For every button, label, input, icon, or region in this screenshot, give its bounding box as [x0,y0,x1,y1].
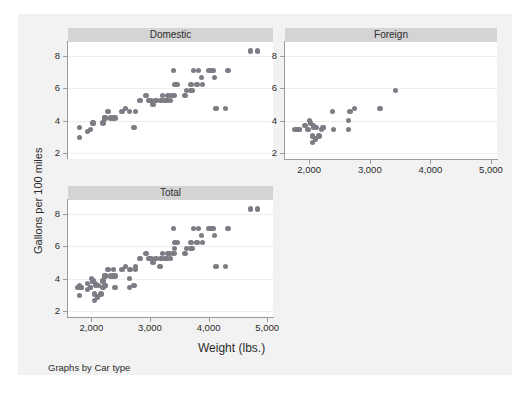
data-point [127,109,132,114]
y-tick-label: 8 [257,51,277,60]
y-tick-label: 2 [40,148,60,157]
y-axis-line [67,199,68,317]
data-point [199,75,204,80]
plot-area-foreign: 24682,0003,0004,0005,000 [285,42,497,159]
gridline [68,214,273,215]
plot-area-total: 24682,0003,0004,0005,000 [68,200,273,317]
data-point [175,82,180,87]
y-tick-label: 8 [40,51,60,60]
figure-note: Graphs by Car type [48,362,130,373]
data-point [172,246,177,251]
y-tick [63,214,67,215]
gridline [285,88,497,89]
data-point [196,68,201,73]
data-point [112,273,117,278]
x-tick-label: 5,000 [471,165,511,175]
y-tick [63,311,67,312]
data-point [133,109,138,114]
data-point [88,127,93,132]
y-tick-label: 4 [40,274,60,283]
data-point [77,125,82,130]
data-point [248,48,253,53]
data-point [171,68,176,73]
data-point [131,283,136,288]
y-tick [63,279,67,280]
data-point [171,226,176,231]
data-point [194,82,199,87]
data-point [102,115,107,120]
y-tick [63,153,67,154]
data-point [296,127,301,132]
gridline [68,279,273,280]
y-tick-label: 6 [40,241,60,250]
gridline [68,311,273,312]
data-point [200,82,205,87]
panel-total: Total 24682,0003,0004,0005,000 [68,186,273,317]
panel-domestic: Domestic 2468 [68,28,273,159]
data-point [330,109,335,114]
y-axis-line [284,41,285,159]
y-tick [63,56,67,57]
plot-area-domestic: 2468 [68,42,273,159]
data-point [255,206,260,211]
data-point [200,240,205,245]
data-point [213,264,218,269]
data-point [213,106,218,111]
y-tick [63,121,67,122]
data-point [102,273,107,278]
data-point [225,226,230,231]
data-point [182,251,187,256]
gridline [285,153,497,154]
data-point [199,233,204,238]
y-tick-label: 4 [257,116,277,125]
data-point [248,206,253,211]
data-point [131,125,136,130]
data-point [212,75,217,80]
data-point [111,267,116,272]
data-point [346,127,351,132]
x-tick-label: 3,000 [350,165,390,175]
x-tick-label: 4,000 [410,165,450,175]
panel-title-domestic: Domestic [68,28,273,42]
y-axis-title: Gallons per 100 miles [32,148,44,254]
data-point [98,291,103,296]
y-tick [280,88,284,89]
y-tick [280,56,284,57]
data-point [189,88,194,93]
data-point [188,240,193,245]
x-tick-label: 4,000 [189,323,229,333]
gridline [285,121,497,122]
y-axis-line [67,41,68,159]
data-point [211,226,216,231]
data-point [196,226,201,231]
y-tick [63,88,67,89]
data-point [316,133,321,138]
data-point [225,68,230,73]
gridline [68,121,273,122]
x-axis-title: Weight (lbs.) [198,341,265,355]
data-point [79,285,84,290]
data-point [223,264,228,269]
y-tick [280,121,284,122]
gridline [68,56,273,57]
data-point [77,293,82,298]
data-point [346,118,351,123]
y-tick-label: 8 [40,209,60,218]
data-point [103,283,108,288]
x-tick-label: 5,000 [247,323,287,333]
panel-foreign: Foreign 24682,0003,0004,0005,000 [285,28,497,159]
x-tick-label: 2,000 [71,323,111,333]
y-tick-label: 6 [40,83,60,92]
y-tick-label: 2 [40,306,60,315]
y-tick-label: 4 [40,116,60,125]
data-point [189,246,194,251]
y-tick-label: 6 [257,83,277,92]
x-tick-label: 3,000 [130,323,170,333]
data-point [305,127,310,132]
figure-canvas: Gallons per 100 miles Domestic 2468 Fore… [18,14,512,375]
panel-title-foreign: Foreign [285,28,497,42]
data-point [194,240,199,245]
data-point [377,106,382,111]
data-point [137,98,142,103]
x-axis-line [284,159,498,160]
